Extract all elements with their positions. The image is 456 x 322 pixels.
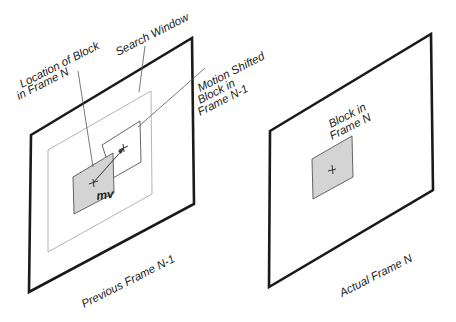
search-window-label: Search Window: [113, 10, 191, 58]
actual-frame-group: Block in Frame N Actual Frame N: [269, 34, 433, 299]
mv-label: mv: [95, 187, 115, 203]
previous-frame-label: Previous Frame N-1: [79, 252, 176, 309]
actual-frame-label: Actual Frame N: [337, 252, 415, 300]
location-block-leader: [78, 71, 93, 167]
motion-estimation-diagram: mv Location of Block in Frame N Search W…: [0, 0, 456, 322]
previous-frame-group: mv Location of Block in Frame N Search W…: [14, 10, 266, 310]
motion-shifted-leader: [138, 68, 205, 127]
